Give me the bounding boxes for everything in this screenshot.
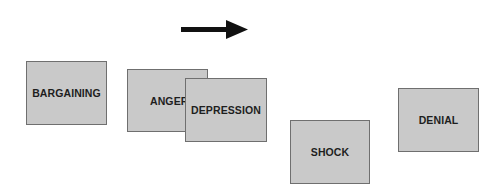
card-bargaining: BARGAINING <box>26 61 107 125</box>
card-label: DENIAL <box>419 114 459 126</box>
card-shock: SHOCK <box>290 120 370 184</box>
card-label: BARGAINING <box>32 87 101 99</box>
card-denial: DENIAL <box>398 88 479 152</box>
card-label: ANGER <box>150 95 188 107</box>
card-label: SHOCK <box>311 146 349 158</box>
card-depression: DEPRESSION <box>185 78 267 142</box>
arrow-right-icon <box>180 19 252 41</box>
card-label: DEPRESSION <box>191 104 261 116</box>
